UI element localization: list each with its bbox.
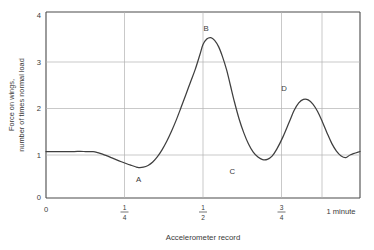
chart-container: 0 1 2 3 4 0 1 4 <box>0 0 374 250</box>
x-tick-label-minute: 1 minute <box>326 207 355 216</box>
fraction-numerator: 1 <box>201 204 205 211</box>
fraction-numerator: 3 <box>280 204 284 211</box>
annotation-label-a: A <box>136 175 142 184</box>
y-axis-title-group: Force on wings, number of times normal l… <box>7 58 26 152</box>
x-tick-label-quarter: 1 4 <box>121 204 129 221</box>
y-tick-label-2: 2 <box>37 104 41 113</box>
y-tick-label-0: 0 <box>37 193 41 202</box>
fraction-denominator: 4 <box>123 214 127 221</box>
fraction-denominator: 2 <box>201 214 205 221</box>
x-tick-label-three-quarter: 3 4 <box>278 204 286 221</box>
annotation-label-b: B <box>203 24 208 33</box>
x-axis-tick-labels: 0 1 4 1 2 3 4 1 minute <box>44 204 356 221</box>
x-tick-label-0: 0 <box>44 205 48 214</box>
y-tick-label-4: 4 <box>37 11 41 20</box>
y-tick-label-1: 1 <box>37 151 41 160</box>
y-axis-title-line2: number of times normal load <box>17 58 26 152</box>
x-axis-title: Accelerometer record <box>166 233 241 242</box>
y-tick-label-3: 3 <box>37 58 41 67</box>
y-axis-group: 0 1 2 3 4 <box>37 11 46 202</box>
fraction-denominator: 4 <box>280 214 284 221</box>
accelerometer-line-chart: 0 1 2 3 4 0 1 4 <box>0 0 374 250</box>
annotation-label-c: C <box>229 167 235 176</box>
annotation-label-d: D <box>281 84 287 93</box>
x-tick-label-half: 1 2 <box>199 204 207 221</box>
fraction-numerator: 1 <box>123 204 127 211</box>
vertical-gridlines <box>125 12 323 198</box>
y-axis-title-line1: Force on wings, <box>7 79 16 131</box>
